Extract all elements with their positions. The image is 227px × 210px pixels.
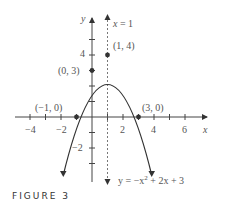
parabola-chart: y x = 1 (1, 4) (0, 3) (−1, 0) (3, 0) 4 −… bbox=[0, 0, 227, 210]
figure-caption: FIGURE 3 bbox=[12, 191, 70, 201]
tick-x-m2: −2 bbox=[56, 124, 67, 135]
vertex-label: (1, 4) bbox=[113, 40, 135, 52]
symmetry-label: x = 1 bbox=[112, 18, 133, 29]
tick-x-m4: −4 bbox=[25, 124, 36, 135]
symmetry-arrow-down-icon bbox=[105, 179, 111, 185]
root-left-label: (−1, 0) bbox=[35, 102, 62, 114]
symmetry-arrow-up-icon bbox=[105, 14, 111, 20]
equation-label: y = −x2 + 2x + 3 bbox=[118, 174, 184, 186]
tick-y-m2: −2 bbox=[72, 142, 83, 153]
y-intercept-label: (0, 3) bbox=[58, 65, 80, 77]
x-axis-label: x bbox=[202, 124, 208, 135]
tick-x-2: 2 bbox=[120, 124, 125, 135]
tick-x-6: 6 bbox=[182, 124, 187, 135]
y-axis-label: y bbox=[80, 13, 86, 24]
tick-x-4: 4 bbox=[151, 124, 156, 135]
tick-y-4: 4 bbox=[80, 48, 85, 59]
curve-arrow-left-icon bbox=[60, 171, 67, 177]
root-right-label: (3, 0) bbox=[142, 102, 164, 114]
